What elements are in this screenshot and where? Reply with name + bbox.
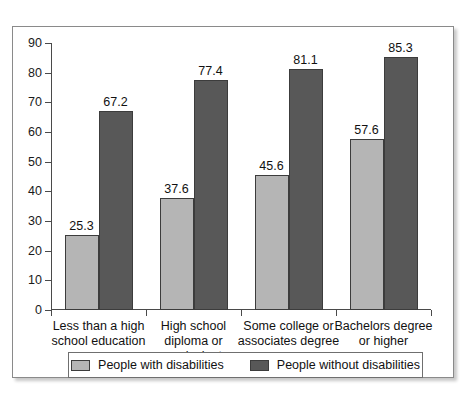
y-axis-label: 40 <box>28 184 42 198</box>
legend-swatch <box>71 360 90 371</box>
chart-frame: 0102030405060708090 25.367.2Less than a … <box>12 26 454 378</box>
bar[interactable]: 77.4 <box>194 80 228 310</box>
y-axis-label: 80 <box>28 66 42 80</box>
bar[interactable]: 57.6 <box>350 139 384 310</box>
legend-item[interactable]: People without disabilities <box>250 358 420 372</box>
plot-area: 0102030405060708090 25.367.2Less than a … <box>51 43 431 310</box>
x-axis-category-line: Bachelors degree <box>325 319 443 334</box>
bar-group-bars: 25.367.2 <box>51 43 146 310</box>
y-axis-label: 0 <box>35 303 42 317</box>
chart-page: 0102030405060708090 25.367.2Less than a … <box>0 0 468 410</box>
y-axis-label: 90 <box>28 36 42 50</box>
x-axis-tick <box>431 310 432 316</box>
bar-group-bars: 57.685.3 <box>336 43 431 310</box>
y-axis-label: 10 <box>28 273 42 287</box>
bar-value-label: 77.4 <box>198 64 222 78</box>
legend-label: People with disabilities <box>98 358 224 372</box>
bar[interactable]: 25.3 <box>65 235 99 310</box>
bar-group: 25.367.2Less than a highschool education <box>51 43 146 310</box>
bar-value-label: 67.2 <box>103 95 127 109</box>
bar-group-bars: 45.681.1 <box>241 43 336 310</box>
legend-swatch <box>250 360 269 371</box>
x-axis-tick <box>51 310 52 316</box>
bar[interactable]: 45.6 <box>255 175 289 310</box>
y-axis-label: 60 <box>28 125 42 139</box>
bar-group-bars: 37.677.4 <box>146 43 241 310</box>
bar[interactable]: 37.6 <box>160 198 194 310</box>
legend-label: People without disabilities <box>277 358 420 372</box>
x-axis-category-label: Bachelors degreeor higher <box>325 319 443 349</box>
bar-value-label: 45.6 <box>259 159 283 173</box>
x-axis-tick <box>241 310 242 316</box>
x-axis-tick <box>336 310 337 316</box>
bar-group: 45.681.1Some college orassociates degree <box>241 43 336 310</box>
bar-value-label: 25.3 <box>69 219 93 233</box>
bar-value-label: 57.6 <box>354 123 378 137</box>
x-axis-tick <box>146 310 147 316</box>
legend-item[interactable]: People with disabilities <box>71 358 224 372</box>
y-axis-label: 70 <box>28 95 42 109</box>
bar-value-label: 85.3 <box>388 41 412 55</box>
chart-legend: People with disabilitiesPeople without d… <box>68 352 423 378</box>
bar[interactable]: 81.1 <box>289 69 323 310</box>
y-axis-label: 20 <box>28 244 42 258</box>
bar-group: 37.677.4High schooldiploma orequivalent <box>146 43 241 310</box>
bar[interactable]: 67.2 <box>99 111 133 310</box>
x-axis-category-line: or higher <box>325 334 443 349</box>
bar-value-label: 81.1 <box>293 53 317 67</box>
y-axis-label: 30 <box>28 214 42 228</box>
y-axis-label: 50 <box>28 155 42 169</box>
bar[interactable]: 85.3 <box>384 57 418 310</box>
bar-value-label: 37.6 <box>164 182 188 196</box>
bar-group: 57.685.3Bachelors degreeor higher <box>336 43 431 310</box>
